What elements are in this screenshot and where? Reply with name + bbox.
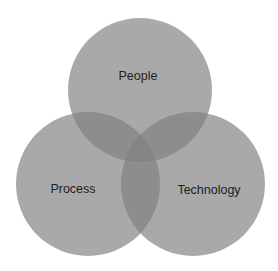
venn-diagram: People Process Technology xyxy=(0,0,278,271)
label-people: People xyxy=(119,69,158,83)
venn-circles xyxy=(16,18,265,256)
label-technology: Technology xyxy=(177,183,241,197)
label-process: Process xyxy=(50,182,95,196)
